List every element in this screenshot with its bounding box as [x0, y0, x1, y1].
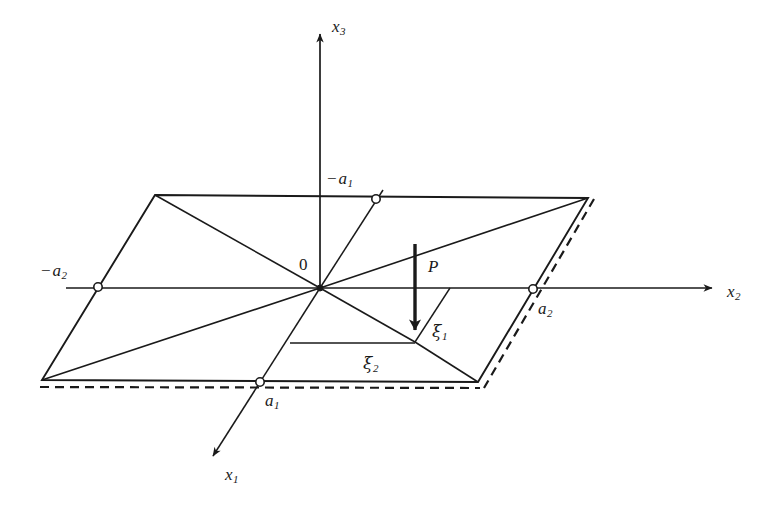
x2-axis-label: x2	[727, 283, 741, 302]
diagonal-origin-topright	[320, 198, 588, 288]
marker-neg-a1-minus: −	[327, 169, 337, 188]
marker-neg-a1-label: −a1	[327, 170, 353, 189]
marker-neg-a2-label: −a2	[41, 262, 67, 281]
marker-a1-label: a1	[263, 392, 280, 411]
load-label-P: P	[428, 258, 438, 275]
marker-a1-circle	[256, 378, 264, 386]
origin-label: 0	[299, 256, 308, 273]
marker-neg-a2-minus: −	[41, 261, 51, 280]
x1-axis-line	[213, 288, 320, 456]
marker-a2-sub: 2	[547, 307, 553, 319]
figure-root: x3 x2 x1 −a1 −a2 a1 a2 0 P ξ1 ξ2	[0, 0, 775, 510]
point-markers	[94, 195, 537, 386]
xi1-label: ξ1	[432, 323, 447, 342]
x2-axis-label-base: x	[727, 282, 735, 301]
diagonal-origin-topleft	[155, 195, 320, 288]
plate-diagram-svg	[0, 0, 775, 510]
xi2-label: ξ2	[363, 355, 378, 374]
marker-a2-label: a2	[536, 300, 553, 319]
marker-neg-a1-sub: 1	[348, 177, 354, 189]
x3-axis-label-sub: 3	[340, 25, 346, 37]
x2-axis-label-sub: 2	[735, 290, 741, 302]
marker-neg-a1-base: a	[339, 169, 348, 188]
x1-axis-label-sub: 1	[233, 473, 239, 485]
xi1-label-sub: 1	[442, 330, 448, 342]
marker-neg-a2-base: a	[53, 261, 62, 280]
x1-axis-label: x1	[225, 466, 239, 485]
x3-axis-label: x3	[332, 18, 346, 37]
xi2-label-base: ξ	[363, 353, 372, 373]
x3-axis-label-base: x	[332, 17, 340, 36]
marker-neg-a1-circle	[372, 195, 380, 203]
marker-a2-base: a	[538, 299, 547, 318]
marker-a1-base: a	[265, 391, 274, 410]
marker-a1-sub: 1	[274, 399, 280, 411]
marker-a2-circle	[529, 285, 537, 293]
origin-point	[317, 285, 323, 291]
x1-axis-label-base: x	[225, 465, 233, 484]
xi1-label-base: ξ	[432, 321, 441, 341]
x1-axis-negative-line	[320, 190, 383, 288]
diagonal-origin-loadpoint	[320, 288, 415, 342]
marker-neg-a2-sub: 2	[62, 269, 68, 281]
axis-lines	[66, 34, 712, 456]
xi2-label-sub: 2	[373, 362, 379, 374]
diagonal-loadpoint-bottomright	[415, 342, 478, 382]
diagonal-origin-bottomleft	[42, 288, 320, 380]
marker-neg-a2-circle	[94, 283, 102, 291]
dashed-bottom-edge	[40, 387, 480, 388]
